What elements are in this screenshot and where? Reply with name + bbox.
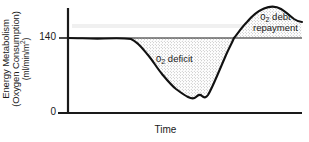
- annotation-o2-debt-repayment: 02 debt repayment: [253, 12, 298, 33]
- x-axis-title-text: Time: [133, 124, 177, 135]
- annotation-o2-deficit: 02 deficit: [156, 54, 193, 65]
- o2-deficit-fill: [68, 38, 234, 98]
- figure-oxygen-deficit-debt: Energy Metabolism (Oxygen Consumption) (…: [0, 0, 309, 142]
- annotation-o2-deficit-subscript: 2: [161, 58, 165, 65]
- annotation-o2-deficit-tail: deficit: [165, 53, 192, 64]
- annotation-o2-debt-line-2: repayment: [253, 23, 298, 34]
- annotation-o2-debt-tail: debt: [269, 11, 290, 22]
- x-axis-title: Time: [0, 124, 309, 135]
- annotation-o2-debt-subscript: 2: [266, 16, 270, 23]
- background-smudge: [72, 24, 250, 28]
- annotation-o2-debt-o: 0: [260, 11, 265, 22]
